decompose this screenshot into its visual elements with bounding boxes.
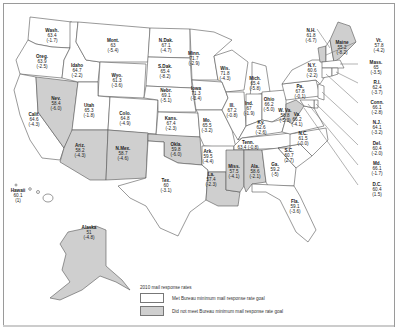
label-az: Ariz.58.2(-4.3) xyxy=(75,143,86,159)
label-ks: Kans.67.4(-2.3) xyxy=(165,116,178,132)
label-wa: Wash.63.4(-1.7) xyxy=(45,28,58,44)
state-hi xyxy=(43,194,53,202)
label-ok: Okla.59.8(-6.0) xyxy=(170,142,181,158)
label-al: Ala.58.6(-2.1) xyxy=(250,164,261,180)
map-legend: 2010 mail response rates Met Bureau mini… xyxy=(140,285,283,316)
legend-item-met: Met Bureau minimum mail response rate go… xyxy=(140,293,283,303)
label-il: Ill.67.2(-0.8) xyxy=(227,103,238,119)
label-nc: N.C.61.5(-0.0) xyxy=(298,131,309,147)
label-dc: D.C.60.4(1.5) xyxy=(372,182,381,198)
label-la: La.57.4(-2.3) xyxy=(206,172,217,188)
label-mt: Mont.63(-5.4) xyxy=(107,38,119,54)
label-md: Md.66.1(-1.7) xyxy=(372,161,383,177)
label-fl: Fla.59.1(-3.6) xyxy=(290,199,301,215)
legend-label-met: Met Bureau minimum mail response rate go… xyxy=(172,296,265,301)
label-mn: Minn.71.7(-2.9) xyxy=(188,51,200,67)
label-tx: Tex.60(-3.1) xyxy=(161,178,172,194)
label-ms: Miss.57.5(-4.1) xyxy=(228,164,240,180)
label-wy: Wyo.61.3(-3.6) xyxy=(112,73,123,89)
label-ar: Ark.59.5(-4.4) xyxy=(203,149,214,165)
label-tn: Tenn.63.4 (-0.8) xyxy=(237,140,258,150)
bottom-divider xyxy=(3,325,394,327)
label-nh: N.H.61.8(-6.7) xyxy=(306,28,317,44)
label-mo: Mo.65.5(-3.2) xyxy=(202,118,213,134)
state-ri xyxy=(332,68,338,76)
state-co xyxy=(108,97,158,134)
label-de: Del.60.4(-2.0) xyxy=(372,141,383,157)
label-oh: Ohio66.2(-5.0) xyxy=(264,97,275,113)
legend-title: 2010 mail response rates xyxy=(140,285,283,290)
label-vt: Vt.57.8(-4.2) xyxy=(374,38,385,54)
state-nj xyxy=(318,84,324,100)
leader-nh xyxy=(317,29,330,48)
state-ks xyxy=(156,112,200,137)
label-ky: Ky.62.6(-2.6) xyxy=(256,120,267,136)
leader-nj xyxy=(322,92,358,125)
label-ak: Alaska51(-4.8) xyxy=(82,225,97,241)
label-mi: Mich.65.4(-5.8) xyxy=(249,76,261,92)
label-or: Oreg.63.9(-2.5) xyxy=(36,54,48,70)
label-va: Va.66.2(-4.1) xyxy=(292,112,303,128)
state-fl xyxy=(252,184,316,242)
label-pa: Pa.67.8(-0.1) xyxy=(295,84,306,100)
label-ne: Nebr.69.1(-5.1) xyxy=(160,88,172,104)
state-vt xyxy=(318,46,326,62)
label-sc: S.C.60.7(2.7) xyxy=(284,148,293,164)
label-wv: W. Va.58.8(-5.3) xyxy=(278,108,291,124)
label-ut: Utah65.3(-1.8) xyxy=(84,103,95,119)
label-hi: Hawaii60.1(1) xyxy=(11,188,26,204)
label-ri: R.I.62.4(-3.7) xyxy=(372,80,383,96)
label-ny: N.Y.60.6(-2.2) xyxy=(307,63,318,79)
label-in: Ind.67(-1.9) xyxy=(244,101,255,117)
label-ma: Mass.65(-3.5) xyxy=(370,60,383,76)
label-ia: Iowa71.3(-3.4) xyxy=(191,86,202,102)
label-nv: Nev.58.4(-6.0) xyxy=(51,96,62,112)
label-co: Colo.64.8(-4.9) xyxy=(119,111,130,127)
state-ct xyxy=(322,68,332,78)
state-ny xyxy=(282,60,324,84)
legend-swatch-not-met xyxy=(140,306,164,316)
label-me: Maine55.2(-8.2) xyxy=(335,40,348,56)
leader-ct xyxy=(326,74,358,103)
label-wi: Wis.71.8(-4.3) xyxy=(220,66,231,82)
label-nm: N.Mex.58.7(-4.6) xyxy=(116,146,131,162)
label-nd: N.Dak.67.1(-4.7) xyxy=(159,38,173,54)
legend-label-not-met: Did not meet Bureau minimum mail respons… xyxy=(172,309,283,314)
leader-ri xyxy=(336,72,358,83)
label-sd: S.Dak.65.4(-8.2) xyxy=(158,64,172,80)
label-ga: Ga.59.2(-5) xyxy=(271,162,280,178)
legend-swatch-met xyxy=(140,293,164,303)
label-ca: Calif.64.6(-4.3) xyxy=(28,112,39,128)
label-ct: Conn.66.1(-2.8) xyxy=(370,100,383,116)
label-id: Idaho64.7(-2.2) xyxy=(71,63,83,79)
legend-item-not-met: Did not meet Bureau minimum mail respons… xyxy=(140,306,283,316)
label-nj: N.J.64.1(-3.2) xyxy=(372,120,383,136)
